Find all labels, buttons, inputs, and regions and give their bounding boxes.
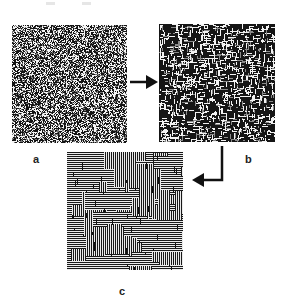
panel-c-striped-domains bbox=[67, 152, 183, 270]
panel-b-segment-pattern bbox=[159, 24, 275, 142]
arrow-right-icon bbox=[128, 74, 160, 90]
panel-label-b: b bbox=[245, 154, 252, 165]
panel-a-random-pattern bbox=[12, 25, 127, 143]
panel-label-c: c bbox=[119, 286, 125, 297]
panel-a-image bbox=[12, 25, 127, 143]
panel-b-image bbox=[159, 24, 275, 142]
cropped-caption-residue bbox=[40, 2, 100, 5]
elbow-arrow-down-left-icon bbox=[188, 144, 228, 190]
panel-label-a: a bbox=[33, 154, 39, 165]
panel-c-image bbox=[67, 152, 183, 270]
